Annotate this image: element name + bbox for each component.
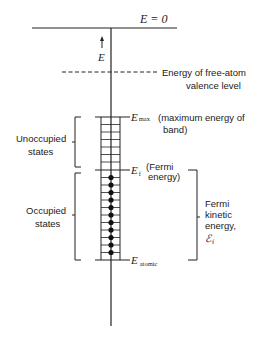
emax-label: Emax [130, 111, 151, 123]
occupied-bracket [72, 173, 81, 260]
fermi-kinetic-symbol: ℰf [205, 233, 215, 245]
free-atom-level-label-1: Energy of free-atom [162, 67, 246, 78]
atomic-energy-label: Eatomic [130, 254, 158, 267]
emax-desc-1: (maximum energy of [158, 112, 245, 123]
zero-energy-label: E = 0 [139, 12, 167, 26]
fermi-energy-symbol: Ef [130, 164, 142, 177]
up-arrow-icon [100, 36, 104, 48]
unoccupied-label-2: states [28, 146, 54, 157]
fermi-kinetic-energy-bracket [188, 170, 200, 260]
energy-arrow-label: E [97, 51, 105, 63]
unoccupied-label-1: Unoccupied [16, 133, 66, 144]
fermi-kinetic-label-2: kinetic [205, 209, 232, 220]
free-atom-level-label-2: valence level [186, 80, 241, 91]
occupied-label-2: states [35, 218, 61, 229]
occupied-label-1: Occupied [26, 205, 66, 216]
occupied-state-dots [108, 175, 113, 255]
fermi-kinetic-label-1: Fermi [205, 198, 229, 209]
energy-band-diagram: E = 0 E Energy of free-atom valence leve… [0, 0, 264, 338]
fermi-kinetic-label-3: energy, [205, 220, 236, 231]
emax-desc-2: band) [163, 124, 187, 135]
unoccupied-bracket [72, 117, 81, 167]
fermi-energy-desc-2: energy) [148, 171, 180, 182]
